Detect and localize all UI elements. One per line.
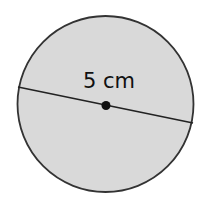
diameter-label: 5 cm bbox=[83, 69, 135, 93]
circle-diagram: 5 cm bbox=[0, 0, 201, 202]
center-point bbox=[102, 101, 111, 110]
